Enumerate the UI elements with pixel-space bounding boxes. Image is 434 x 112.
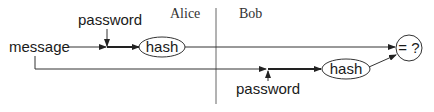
bob-hash-node: hash bbox=[322, 59, 370, 79]
password-label-alice: password bbox=[78, 11, 142, 28]
party-label-alice: Alice bbox=[170, 6, 200, 21]
alice-hash-label: hash bbox=[146, 38, 179, 55]
party-label-bob: Bob bbox=[239, 6, 262, 21]
alice-hash-node: hash bbox=[139, 37, 185, 57]
compare-label: = ? bbox=[398, 39, 419, 56]
message-to-bob-path bbox=[35, 56, 266, 69]
hash-comparison-diagram: Alice Bob message password hash password… bbox=[0, 0, 434, 112]
message-label: message bbox=[9, 38, 70, 55]
bob-hash-to-compare-arrow bbox=[369, 55, 396, 67]
password-label-bob: password bbox=[236, 80, 300, 97]
compare-node: = ? bbox=[396, 35, 422, 61]
bob-hash-label: hash bbox=[330, 60, 363, 77]
